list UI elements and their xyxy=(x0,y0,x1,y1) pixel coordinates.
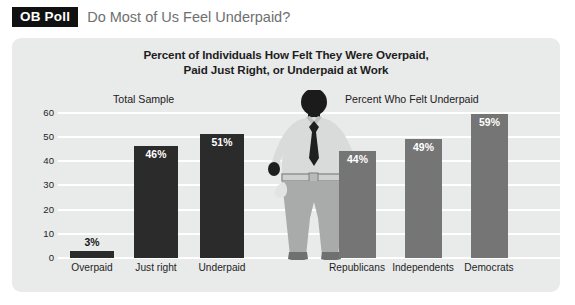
bar-value-overpaid: 3% xyxy=(66,237,118,248)
plot-area: 0 10 20 30 40 50 60 xyxy=(12,38,560,292)
bar-value-underpaid: 51% xyxy=(200,137,244,148)
page-header: OB Poll Do Most of Us Feel Underpaid? xyxy=(0,0,575,34)
category-label-just-right: Just right xyxy=(124,262,188,273)
brand-badge: OB Poll xyxy=(12,7,78,28)
category-label-underpaid: Underpaid xyxy=(190,262,254,273)
page-title: Do Most of Us Feel Underpaid? xyxy=(87,9,290,25)
bar-republicans: 44% xyxy=(339,151,376,258)
bar-just-right: 46% xyxy=(134,146,178,258)
chart-panel: Percent of Individuals How Felt They Wer… xyxy=(12,38,560,292)
ytick-label-40: 40 xyxy=(20,155,54,166)
ytick-label-0: 0 xyxy=(20,252,54,263)
bar-value-republicans: 44% xyxy=(339,154,376,165)
bar-overpaid: 3% xyxy=(70,251,114,258)
bar-value-democrats: 59% xyxy=(471,117,508,128)
category-label-overpaid: Overpaid xyxy=(60,262,124,273)
ytick-label-50: 50 xyxy=(20,131,54,142)
ytick-label-10: 10 xyxy=(20,228,54,239)
ytick-label-20: 20 xyxy=(20,204,54,215)
category-label-democrats: Democrats xyxy=(449,262,529,273)
bar-value-independents: 49% xyxy=(405,142,442,153)
ytick-label-30: 30 xyxy=(20,179,54,190)
bar-value-just-right: 46% xyxy=(134,149,178,160)
ytick-label-60: 60 xyxy=(20,107,54,118)
bar-independents: 49% xyxy=(405,139,442,258)
bar-underpaid: 51% xyxy=(200,134,244,258)
bar-democrats: 59% xyxy=(471,114,508,258)
